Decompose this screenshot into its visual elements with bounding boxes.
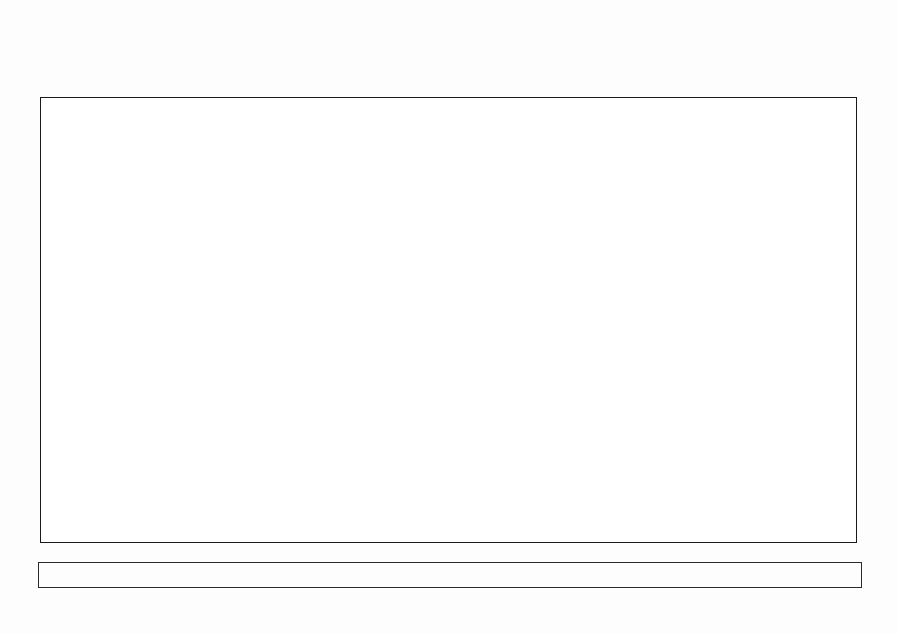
map-plot-area [40, 97, 857, 543]
aerosol-index-figure [0, 0, 897, 633]
colorbar [38, 562, 862, 588]
aerosol-index-heatmap [41, 98, 856, 542]
colorbar-gradient [39, 563, 861, 587]
